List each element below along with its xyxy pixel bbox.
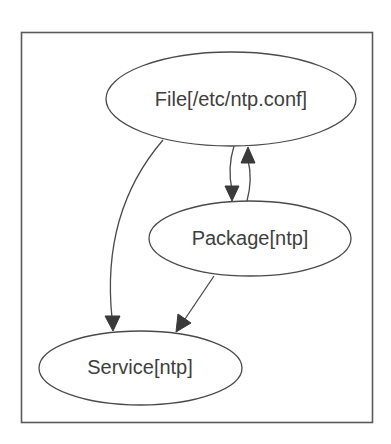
node-package[interactable]: Package[ntp]: [149, 201, 351, 276]
edge-package-to-service: [176, 276, 214, 332]
edge-package-to-file: [241, 147, 255, 201]
node-service[interactable]: Service[ntp]: [39, 331, 242, 405]
dependency-graph: File[/etc/ntp.conf] Package[ntp] Service…: [0, 0, 391, 444]
node-package-label: Package[ntp]: [192, 227, 309, 249]
arrowhead-icon: [105, 316, 120, 331]
arrowhead-icon: [241, 147, 255, 163]
node-file-label: File[/etc/ntp.conf]: [155, 88, 307, 110]
edge-file-to-package: [225, 146, 239, 201]
arrowhead-icon: [225, 186, 239, 201]
arrowhead-icon: [176, 314, 191, 332]
node-file[interactable]: File[/etc/ntp.conf]: [106, 52, 356, 146]
node-service-label: Service[ntp]: [87, 356, 193, 378]
